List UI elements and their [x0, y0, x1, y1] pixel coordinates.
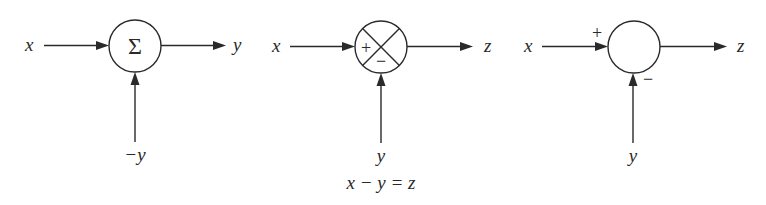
input-label-x: x	[523, 35, 533, 56]
input-label-y: y	[627, 145, 638, 166]
output-label-z: z	[736, 35, 745, 56]
plus-sign: +	[592, 23, 602, 43]
sigma-junction-block: x Σ y −y	[24, 20, 242, 165]
input-arrow	[44, 41, 109, 50]
output-arrow	[161, 41, 226, 50]
equation-caption: x − y = z	[346, 172, 417, 193]
summing-junction-circle	[608, 21, 660, 73]
output-label-z: z	[483, 35, 492, 56]
diagram-canvas: x Σ y −y x	[0, 0, 766, 205]
minus-sign: −	[376, 51, 386, 71]
output-arrow	[660, 42, 727, 51]
input-label-y: y	[375, 145, 386, 166]
output-label-y: y	[231, 34, 242, 55]
diagram-svg: x Σ y −y x	[0, 0, 766, 205]
input-label-x: x	[24, 34, 34, 55]
input-arrow	[290, 42, 355, 51]
input-arrow	[542, 42, 608, 51]
output-arrow	[407, 42, 473, 51]
feedback-label-neg-y: −y	[124, 144, 146, 165]
subtract-input-arrow	[377, 73, 386, 143]
plain-junction-block: x + z − y	[523, 21, 745, 166]
plus-sign: +	[361, 38, 371, 58]
input-label-x: x	[271, 35, 281, 56]
subtract-input-arrow	[629, 73, 638, 143]
sigma-symbol-icon: Σ	[128, 33, 142, 59]
cross-junction-block: x + − z y x − y = z	[271, 21, 492, 193]
minus-sign: −	[643, 69, 653, 89]
feedback-arrow	[131, 72, 140, 142]
